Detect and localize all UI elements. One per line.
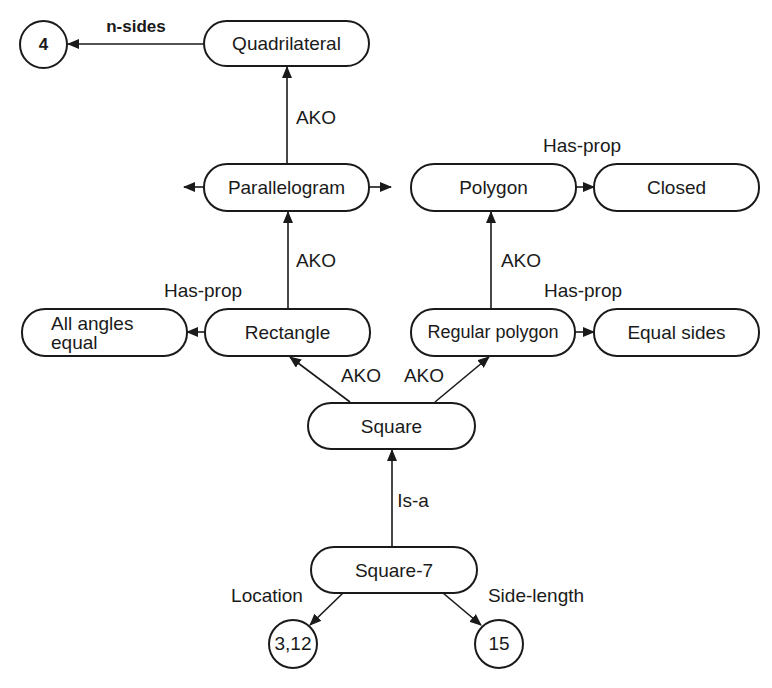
label-ako-regular-polygon-polygon: AKO	[501, 251, 541, 271]
label-ako-parallelogram-quadrilateral: AKO	[296, 108, 336, 128]
label-has-prop-regular-polygon: Has-prop	[544, 281, 622, 301]
label-side-length: Side-length	[488, 586, 584, 606]
label-n-sides: n-sides	[106, 17, 166, 37]
node-regular-polygon: Regular polygon	[410, 308, 576, 357]
label-location: Location	[231, 586, 303, 606]
label-ako-rectangle-parallelogram: AKO	[296, 251, 336, 271]
node-rectangle: Rectangle	[204, 308, 371, 357]
node-square-7: Square-7	[310, 546, 478, 594]
node-all-angles-equal: All angles equal	[21, 308, 188, 357]
label-ako-square-regular-polygon: AKO	[404, 366, 444, 386]
node-parallelogram: Parallelogram	[203, 163, 370, 212]
node-square: Square	[307, 402, 476, 450]
node-closed: Closed	[593, 163, 760, 212]
label-is-a: Is-a	[397, 491, 429, 511]
value-node-four: 4	[19, 20, 68, 69]
edge-side-length	[443, 593, 481, 625]
edge-location	[310, 593, 343, 625]
label-has-prop-rectangle: Has-prop	[164, 281, 242, 301]
label-ako-square-rectangle: AKO	[341, 366, 381, 386]
label-has-prop-polygon-closed: Has-prop	[543, 136, 621, 156]
node-polygon: Polygon	[410, 163, 577, 212]
node-quadrilateral: Quadrilateral	[203, 20, 370, 67]
semantic-network-diagram: 4 3,12 15 Quadrilateral Parallelogram Po…	[0, 0, 772, 688]
value-node-location: 3,12	[268, 619, 318, 669]
value-node-side-length: 15	[474, 619, 524, 669]
node-equal-sides: Equal sides	[593, 308, 760, 357]
